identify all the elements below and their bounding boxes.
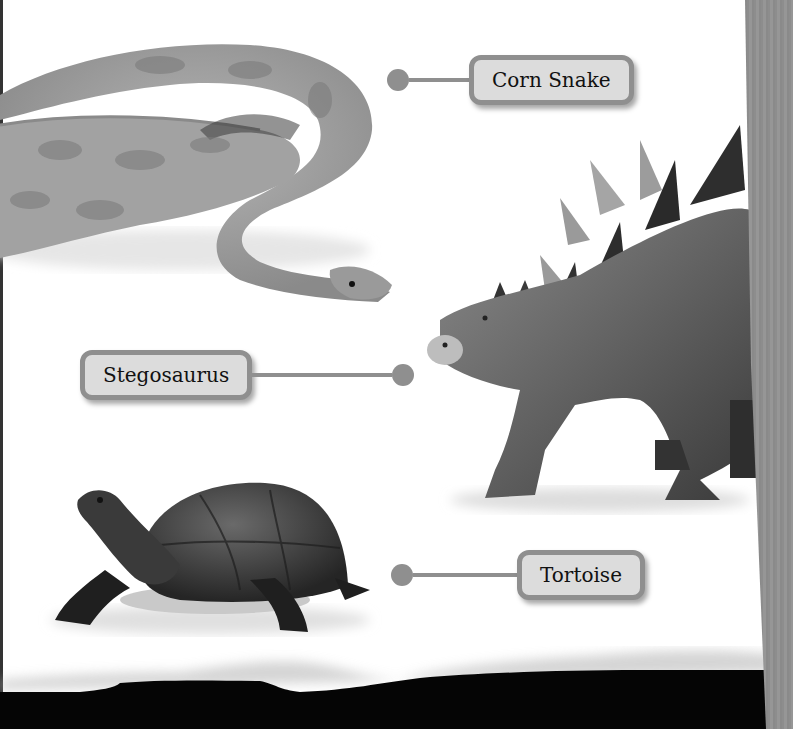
- connector-line: [413, 573, 517, 577]
- corn-snake-image: [0, 44, 392, 302]
- callout-tortoise: Tortoise: [391, 550, 645, 600]
- callout-stegosaurus: Stegosaurus: [80, 350, 414, 400]
- stegosaurus-image: [427, 125, 765, 512]
- label-corn-snake: Corn Snake: [469, 55, 634, 105]
- pointer-dot: [387, 69, 409, 91]
- tortoise-image: [50, 483, 370, 634]
- callout-corn-snake: Corn Snake: [387, 55, 634, 105]
- label-tortoise: Tortoise: [517, 550, 645, 600]
- label-stegosaurus: Stegosaurus: [80, 350, 252, 400]
- book-page: Corn Snake Stegosaurus Tortoise: [0, 0, 793, 729]
- connector-line: [252, 373, 392, 377]
- connector-line: [409, 78, 469, 82]
- pointer-dot: [391, 564, 413, 586]
- pointer-dot: [392, 364, 414, 386]
